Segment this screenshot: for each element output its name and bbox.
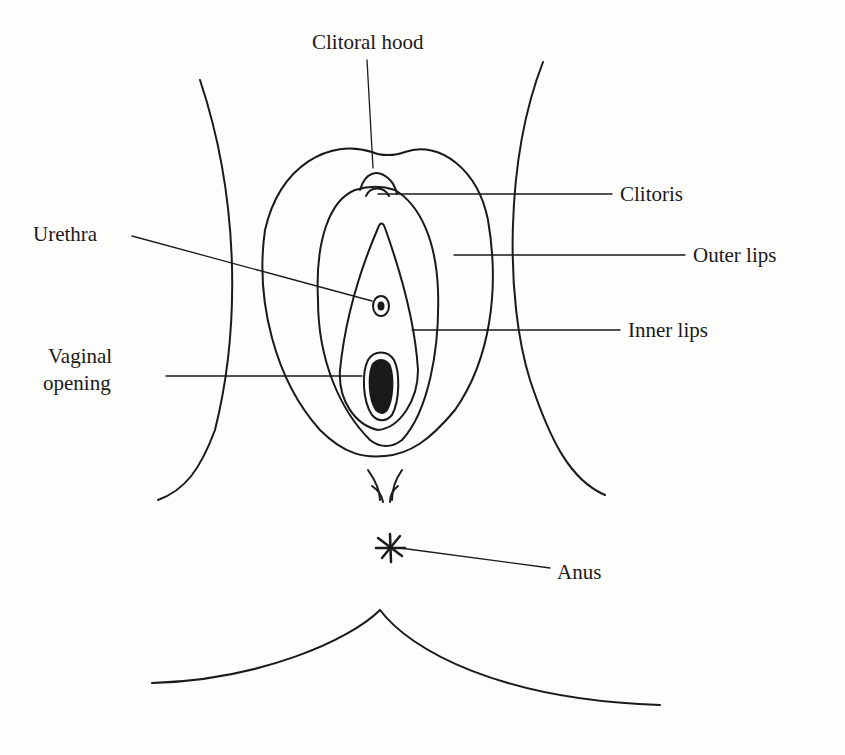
label-anus: Anus [557, 561, 601, 584]
clitoris-shape [366, 189, 389, 197]
label-outer-lips: Outer lips [693, 244, 776, 267]
vaginal-opening-fill [370, 360, 393, 413]
label-vaginal-opening-line1: Vaginal [48, 345, 112, 368]
buttocks-outline [152, 610, 660, 705]
label-inner-lips: Inner lips [628, 319, 708, 342]
left-thigh-outline [158, 80, 232, 500]
label-urethra: Urethra [33, 223, 97, 246]
right-thigh-outline [513, 62, 605, 495]
clitoral-hood-shape [360, 173, 397, 194]
diagram-drawing [0, 0, 845, 755]
label-vaginal-opening-line2: opening [43, 372, 111, 395]
anatomy-diagram: Clitoral hood Clitoris Urethra Outer lip… [0, 0, 845, 755]
label-clitoris: Clitoris [620, 183, 683, 206]
label-clitoral-hood: Clitoral hood [312, 31, 423, 54]
